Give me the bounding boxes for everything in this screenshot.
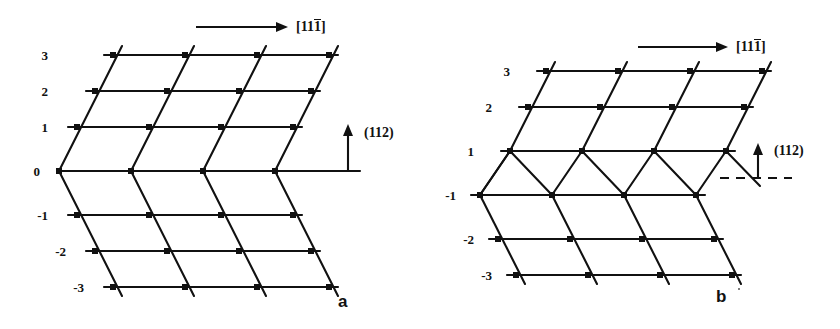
panel-a-plane-arrow [343,124,353,171]
panel-a-row-label-minus1: -1 [16,209,48,222]
panel-a-direction-arrow [196,22,288,32]
panel-b-caption: b [716,288,726,305]
panel-a-direction-suffix: ] [321,19,326,34]
panel-b-row-label-minus2: -2 [442,233,474,246]
panel-b-row-label-minus1: -1 [424,189,456,202]
panel-a-row-label-2: 2 [20,85,48,98]
panel-b-direction-barred-index: 1 [754,40,761,54]
panel-b-plane-label: (112) [774,144,804,158]
panel-a-direction-barred-index: 1 [314,20,321,34]
panel-a-row-label-0: 0 [12,165,40,178]
panel-b-direction-suffix: ] [761,39,766,54]
panel-a-caption: a [338,293,347,310]
panel-a: 3 2 1 0 -1 -2 -3 [111] (112) a [0,0,420,329]
panel-a-oblique-lower [59,171,338,296]
panel-a-row-label-minus2: -2 [34,245,66,258]
panel-b-direction-label: [111] [736,40,766,54]
panel-b-row-label-1: 1 [446,145,474,158]
panel-a-row-label-minus3: -3 [52,281,84,294]
panel-b-horizontal-lines [471,71,771,275]
panel-b-row-label-minus3: -3 [460,269,492,282]
scan-artifact-speck [738,288,740,290]
panel-b-plane-arrow [753,143,763,178]
panel-a-row-label-1: 1 [20,121,48,134]
panel-a-oblique-upper [59,46,338,171]
panel-a-row-label-3: 3 [20,49,48,62]
panel-b: 3 2 1 -1 -2 -3 [111] (112) b [420,0,840,329]
panel-b-row-label-2: 2 [464,101,492,114]
panel-a-lattice [0,0,420,329]
panel-a-plane-label: (112) [364,126,394,140]
panel-a-direction-prefix: [11 [296,19,314,34]
panel-a-direction-label: [111] [296,20,326,34]
panel-b-fault-zigzag [480,151,760,195]
panel-b-row-label-3: 3 [482,65,510,78]
panel-b-direction-prefix: [11 [736,39,754,54]
panel-b-direction-arrow [638,42,728,52]
figure-root: 3 2 1 0 -1 -2 -3 [111] (112) a [0,0,840,329]
